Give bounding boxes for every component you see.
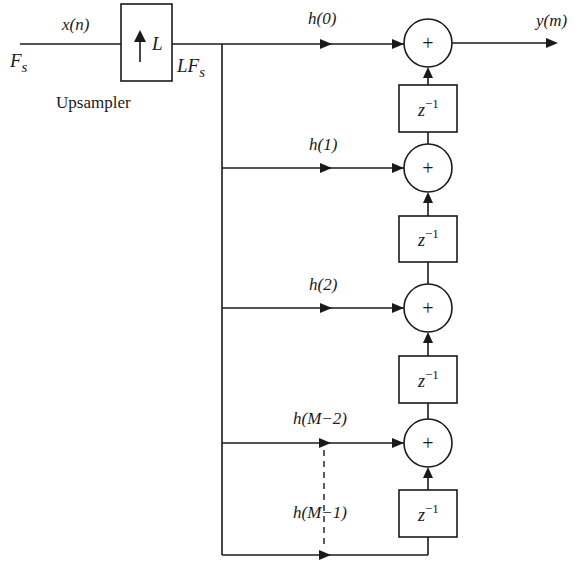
fir-interpolator-diagram: x(n) Fs L Upsampler LFs h(0) h(1) h(2) — [0, 0, 578, 585]
up-arrow-icon — [423, 192, 433, 203]
input-arrow-icon — [392, 303, 404, 313]
adder-2: + — [404, 144, 452, 192]
adder-1: + — [404, 19, 452, 67]
plus-icon: + — [422, 157, 433, 179]
tap-hM-1: h(M−1) — [222, 503, 428, 560]
adder-3: + — [404, 284, 452, 332]
tap-h0: h(0) — [308, 9, 404, 49]
mid-arrow-icon — [319, 550, 331, 560]
tap-h1: h(1) — [222, 135, 404, 173]
upsampled-rate-label: LFs — [176, 55, 205, 80]
upsample-factor: L — [151, 33, 163, 54]
upsampler-block: L — [121, 4, 172, 81]
tap-hM-2: h(M−2) — [222, 409, 404, 448]
up-arrow-icon — [423, 467, 433, 478]
upsampler-caption: Upsampler — [56, 93, 131, 112]
up-arrow-icon — [423, 67, 433, 78]
tap-label: h(0) — [308, 9, 337, 28]
output-arrow-icon — [546, 38, 558, 48]
tap-label: h(1) — [309, 135, 338, 154]
input-rate-label: Fs — [9, 50, 28, 75]
tap-label: h(2) — [309, 275, 338, 294]
mid-arrow-icon — [320, 303, 332, 313]
tap-h2: h(2) — [222, 275, 404, 313]
plus-icon: + — [422, 432, 433, 454]
input-arrow-icon — [392, 163, 404, 173]
plus-icon: + — [422, 32, 433, 54]
tap-label: h(M−2) — [293, 409, 347, 428]
mid-arrow-icon — [319, 438, 331, 448]
input-arrow-icon — [392, 39, 404, 49]
adder-4: + — [404, 419, 452, 467]
mid-arrow-icon — [320, 163, 332, 173]
input-arrow-icon — [392, 438, 404, 448]
mid-arrow-icon — [320, 39, 332, 49]
tap-label: h(M−1) — [293, 503, 347, 522]
up-arrow-icon — [423, 332, 433, 343]
plus-icon: + — [422, 297, 433, 319]
output-signal-label: y(m) — [534, 11, 567, 30]
input-signal-label: x(n) — [61, 15, 90, 34]
